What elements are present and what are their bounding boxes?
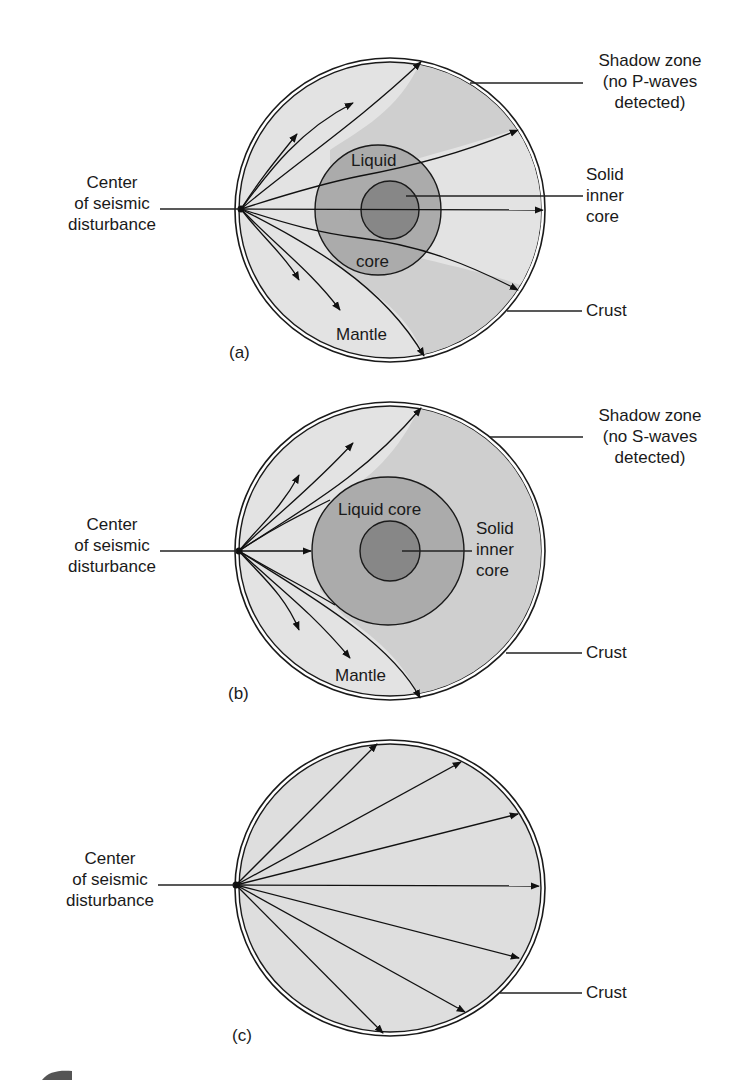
crust-label-a: Crust xyxy=(586,300,627,321)
panel-tag-b: (b) xyxy=(228,684,249,704)
liquid-label-a: Liquid xyxy=(351,151,396,171)
crust-label-c: Crust xyxy=(586,982,627,1003)
mantle-label-b: Mantle xyxy=(335,666,386,686)
crust-label-b: Crust xyxy=(586,642,627,663)
shadow-zone-label-a: Shadow zone (no P-waves detected) xyxy=(580,50,720,113)
shadow-zone-label-b: Shadow zone (no S-waves detected) xyxy=(580,405,720,468)
source-label-b: Center of seismic disturbance xyxy=(62,514,162,577)
inner-core-label-b: Solid inner core xyxy=(476,518,514,581)
panel-c-diagram xyxy=(233,740,546,1036)
panel-tag-a: (a) xyxy=(229,343,250,363)
panel-tag-c: (c) xyxy=(232,1026,252,1046)
mantle-label-a: Mantle xyxy=(336,325,387,345)
page-edge-mark xyxy=(42,1071,72,1080)
source-label-c: Center of seismic disturbance xyxy=(60,848,160,911)
mantle-c xyxy=(239,744,541,1032)
core-label-a: core xyxy=(356,252,389,272)
inner-core-label-a: Solid inner core xyxy=(586,164,624,227)
source-label-a: Center of seismic disturbance xyxy=(62,172,162,235)
panel-a-diagram xyxy=(235,58,560,362)
liquid-core-label-b: Liquid core xyxy=(338,500,421,520)
